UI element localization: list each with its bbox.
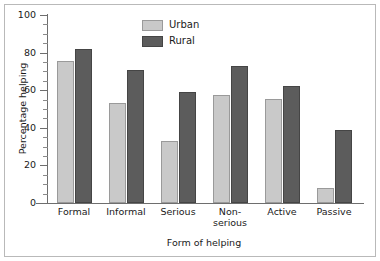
y-tick-major <box>40 15 48 16</box>
y-tick-minor <box>43 156 48 157</box>
y-tick-major <box>40 203 48 204</box>
x-tick-label: Passive <box>308 207 360 218</box>
y-tick-minor <box>43 24 48 25</box>
y-tick-minor <box>43 34 48 35</box>
y-tick-major <box>40 128 48 129</box>
y-tick-minor <box>43 194 48 195</box>
y-tick-minor <box>43 43 48 44</box>
x-tick-label: Formal <box>48 207 100 218</box>
x-axis-title: Form of helping <box>48 237 360 248</box>
legend-item-rural: Rural <box>142 34 199 48</box>
y-tick-minor <box>43 109 48 110</box>
legend-swatch-urban <box>142 20 163 31</box>
legend-label-urban: Urban <box>169 20 199 30</box>
chart-figure: 020406080100 FormalInformalSeriousNon- s… <box>0 0 380 261</box>
x-tick-label: Informal <box>100 207 152 218</box>
y-tick-major <box>40 53 48 54</box>
y-tick-label: 100 <box>6 10 36 20</box>
y-tick-major <box>40 90 48 91</box>
chart-legend: Urban Rural <box>142 18 199 50</box>
legend-swatch-rural <box>142 36 163 47</box>
legend-item-urban: Urban <box>142 18 199 32</box>
y-tick-label: 0 <box>6 198 36 208</box>
y-tick-minor <box>43 81 48 82</box>
plot-area <box>48 15 360 203</box>
y-tick-minor <box>43 100 48 101</box>
legend-label-rural: Rural <box>169 36 195 46</box>
y-tick-minor <box>43 118 48 119</box>
y-tick-minor <box>43 137 48 138</box>
y-tick-minor <box>43 147 48 148</box>
y-tick-minor <box>43 184 48 185</box>
y-tick-major <box>40 165 48 166</box>
x-axis-line <box>36 203 364 204</box>
x-tick-label: Non- serious <box>204 207 256 228</box>
x-tick-label: Active <box>256 207 308 218</box>
y-tick-minor <box>43 71 48 72</box>
x-tick-label: Serious <box>152 207 204 218</box>
y-axis-title: Percentage helping <box>17 34 28 184</box>
y-tick-minor <box>43 62 48 63</box>
y-tick-minor <box>43 175 48 176</box>
